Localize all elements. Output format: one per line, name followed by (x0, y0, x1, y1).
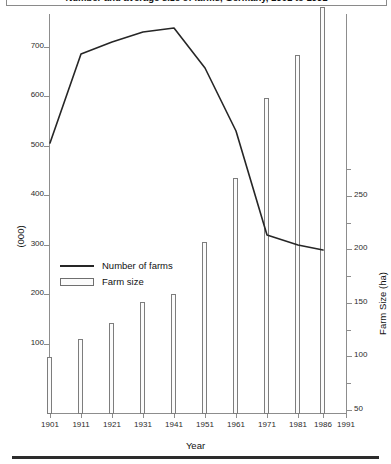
bar-1941 (171, 294, 176, 414)
y-axis-title-left: (000) (15, 207, 26, 267)
right-tick-200 (347, 249, 352, 250)
left-tick-600 (44, 96, 49, 97)
chart-legend: Number of farms Farm size (60, 258, 200, 290)
bottom-axis-line (49, 413, 347, 414)
right-minor-tick-275 (347, 169, 351, 170)
left-axis-line (49, 14, 50, 414)
number-of-farms-line (0, 0, 391, 464)
bar-1951 (202, 242, 207, 414)
bar-1931 (140, 302, 145, 414)
x-tick-label-1901: 1901 (33, 420, 67, 429)
bar-1921 (109, 323, 114, 414)
bar-1971 (264, 98, 269, 414)
right-minor-tick-225 (347, 223, 351, 224)
x-tick-label-1991: 1991 (329, 420, 363, 429)
x-tick-1971 (267, 414, 268, 418)
right-tick-250 (347, 196, 352, 197)
chart-figure: Number and average size of farms, German… (0, 0, 391, 464)
right-minor-tick-75 (347, 383, 351, 384)
right-tick-label-50: 50 (354, 404, 391, 416)
bar-1986 (320, 7, 325, 414)
right-minor-tick-125 (347, 330, 351, 331)
left-tick-label-500: 500 (4, 140, 44, 152)
left-tick-300 (44, 245, 49, 246)
x-tick-1951 (205, 414, 206, 418)
x-tick-1921 (112, 414, 113, 418)
left-tick-label-100: 100 (4, 338, 44, 350)
plot-area: 700 600 500 400 300 200 100 250 200 150 (0, 0, 391, 464)
left-tick-400 (44, 195, 49, 196)
x-tick-1981 (298, 414, 299, 418)
x-tick-label-1951: 1951 (188, 420, 222, 429)
left-tick-500 (44, 146, 49, 147)
x-tick-label-1911: 1911 (64, 420, 98, 429)
right-tick-50 (347, 410, 352, 411)
legend-line-swatch (60, 265, 94, 267)
x-tick-1941 (174, 414, 175, 418)
left-tick-700 (44, 47, 49, 48)
x-tick-label-1971: 1971 (250, 420, 284, 429)
legend-label-number-of-farms: Number of farms (102, 258, 173, 274)
right-axis-line (346, 14, 347, 414)
legend-item-number-of-farms: Number of farms (60, 258, 200, 274)
left-tick-label-400: 400 (4, 189, 44, 201)
bottom-divider (12, 456, 379, 459)
bar-1911 (78, 339, 83, 414)
legend-item-farm-size: Farm size (60, 274, 200, 290)
x-tick-1961 (236, 414, 237, 418)
bar-1961 (233, 178, 238, 414)
left-tick-100 (44, 344, 49, 345)
left-tick-label-200: 200 (4, 288, 44, 300)
y-axis-title-right: Farm Size (ha) (377, 249, 388, 359)
x-tick-1991 (346, 414, 347, 418)
bar-1901 (47, 357, 52, 414)
x-tick-label-1941: 1941 (157, 420, 191, 429)
legend-label-farm-size: Farm size (102, 274, 144, 290)
x-tick-label-1961: 1961 (219, 420, 253, 429)
x-tick-1931 (143, 414, 144, 418)
x-tick-1901 (50, 414, 51, 418)
bar-1981 (295, 55, 300, 414)
x-axis-title: Year (0, 440, 391, 451)
x-tick-1986 (323, 414, 324, 418)
left-tick-label-600: 600 (4, 90, 44, 102)
left-tick-label-700: 700 (4, 41, 44, 53)
right-tick-150 (347, 303, 352, 304)
right-tick-100 (347, 356, 352, 357)
x-tick-label-1931: 1931 (126, 420, 160, 429)
right-tick-label-250: 250 (354, 190, 391, 202)
x-tick-label-1921: 1921 (95, 420, 129, 429)
right-minor-tick-175 (347, 276, 351, 277)
x-tick-1911 (81, 414, 82, 418)
legend-bar-swatch (60, 278, 94, 286)
left-tick-200 (44, 294, 49, 295)
